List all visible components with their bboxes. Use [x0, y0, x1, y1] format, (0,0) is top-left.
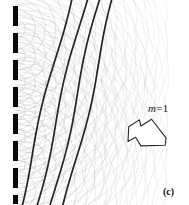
- order-label-value: 1: [163, 102, 169, 114]
- order-label-m-equals-1: m=1: [148, 102, 169, 114]
- barrier-dash: [13, 60, 18, 80]
- barrier-dash: [13, 6, 18, 26]
- panel-label: (c): [163, 186, 174, 197]
- barrier-dash: [13, 87, 18, 107]
- barrier-dash: [13, 195, 18, 204]
- diffraction-grating-figure: m=1 (c): [0, 0, 189, 205]
- grating-barrier-group: [13, 6, 18, 204]
- wavelet-arc: [15, 0, 46, 59]
- barrier-dash: [13, 141, 18, 161]
- barrier-dash: [13, 114, 18, 134]
- barrier-dash: [13, 33, 18, 53]
- order-label-symbol: m: [148, 102, 156, 114]
- barrier-dash: [13, 168, 18, 188]
